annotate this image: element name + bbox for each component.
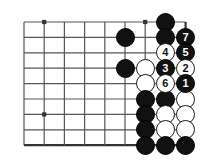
star-point: [143, 20, 147, 24]
star-point: [42, 112, 46, 116]
go-board-diagram: 7453261: [0, 0, 201, 165]
star-point: [42, 20, 46, 24]
board-grid: [0, 0, 201, 165]
